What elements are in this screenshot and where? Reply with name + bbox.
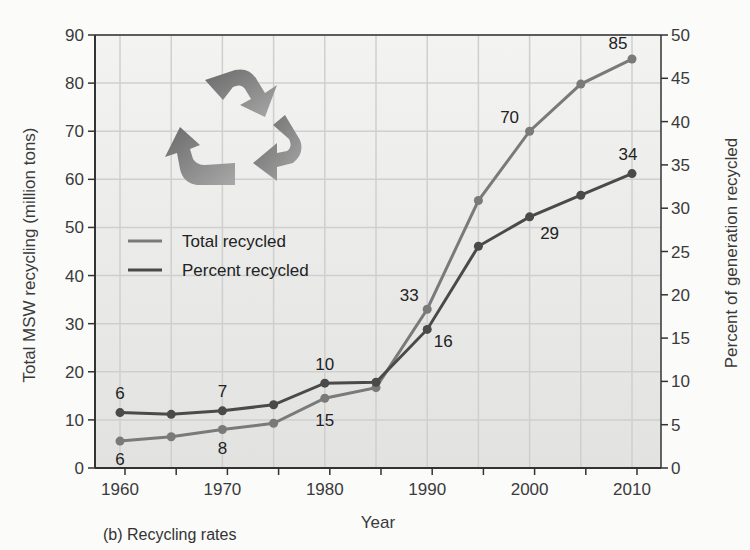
recycling-chart: 0102030405060708090051015202530354045501… — [0, 0, 750, 550]
x-axis-title: Year — [361, 513, 396, 532]
svg-text:40: 40 — [65, 267, 84, 286]
svg-text:6: 6 — [115, 450, 124, 469]
svg-text:25: 25 — [671, 243, 690, 262]
svg-text:10: 10 — [315, 355, 334, 374]
svg-text:70: 70 — [65, 122, 84, 141]
svg-text:2010: 2010 — [613, 480, 651, 499]
svg-text:35: 35 — [671, 156, 690, 175]
svg-text:10: 10 — [671, 372, 690, 391]
y2-axis-title: Percent of generation recycled — [722, 138, 741, 369]
plot-area — [95, 35, 661, 468]
svg-text:34: 34 — [619, 145, 638, 164]
svg-text:40: 40 — [671, 113, 690, 132]
svg-text:20: 20 — [65, 363, 84, 382]
svg-text:0: 0 — [75, 459, 84, 478]
svg-text:60: 60 — [65, 170, 84, 189]
svg-text:1960: 1960 — [101, 480, 139, 499]
svg-text:15: 15 — [315, 411, 334, 430]
svg-text:70: 70 — [500, 108, 519, 127]
svg-text:85: 85 — [609, 34, 628, 53]
svg-text:15: 15 — [671, 329, 690, 348]
svg-text:1990: 1990 — [408, 480, 446, 499]
svg-text:45: 45 — [671, 69, 690, 88]
svg-text:1980: 1980 — [306, 480, 344, 499]
svg-text:33: 33 — [400, 286, 419, 305]
svg-text:5: 5 — [671, 416, 680, 435]
svg-text:2000: 2000 — [511, 480, 549, 499]
svg-text:30: 30 — [65, 315, 84, 334]
svg-text:29: 29 — [540, 224, 559, 243]
svg-text:6: 6 — [115, 384, 124, 403]
svg-text:30: 30 — [671, 199, 690, 218]
svg-text:0: 0 — [671, 459, 680, 478]
svg-text:1970: 1970 — [203, 480, 241, 499]
legend-percent: Percent recycled — [182, 261, 309, 280]
svg-text:8: 8 — [218, 439, 227, 458]
svg-text:7: 7 — [218, 382, 227, 401]
svg-text:90: 90 — [65, 26, 84, 45]
svg-text:80: 80 — [65, 74, 84, 93]
y-axis-title: Total MSW recycling (million tons) — [20, 127, 39, 382]
svg-text:20: 20 — [671, 286, 690, 305]
legend-total: Total recycled — [182, 232, 286, 251]
svg-text:10: 10 — [65, 411, 84, 430]
svg-text:16: 16 — [434, 332, 453, 351]
figure-caption: (b) Recycling rates — [103, 526, 236, 544]
svg-text:50: 50 — [671, 26, 690, 45]
svg-text:50: 50 — [65, 218, 84, 237]
